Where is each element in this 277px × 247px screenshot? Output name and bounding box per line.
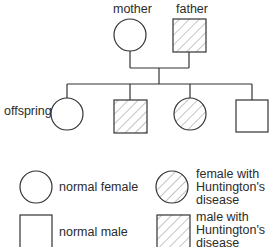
- offspring-label: offspring: [4, 105, 52, 118]
- legend-affected-male-symbol: [157, 215, 190, 247]
- father-label: father: [176, 3, 208, 16]
- offspring-4-male: [236, 100, 268, 132]
- legend-affected-male-label: male with Huntington's disease: [196, 211, 276, 247]
- offspring-2-male-affected: [114, 100, 147, 133]
- mother-symbol: [114, 19, 146, 51]
- legend-normal-female-label: normal female: [59, 181, 138, 194]
- legend-affected-female-symbol: [156, 171, 188, 203]
- legend-normal-male-symbol: [20, 215, 52, 247]
- offspring-3-female-affected: [174, 98, 206, 130]
- mother-label: mother: [113, 3, 152, 16]
- legend-affected-female-label: female with Huntington's disease: [196, 168, 276, 207]
- legend-normal-male-label: normal male: [59, 226, 128, 239]
- offspring-1-female: [51, 98, 83, 130]
- legend-normal-female-symbol: [20, 171, 52, 203]
- father-symbol-affected: [173, 19, 206, 52]
